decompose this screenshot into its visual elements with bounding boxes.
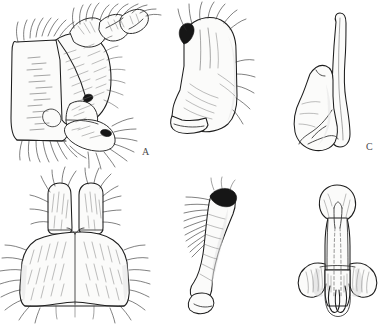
panel-a-appendage-terminal (120, 9, 149, 33)
panel-a: A (0, 0, 165, 170)
panel-f: F (290, 178, 382, 318)
panel-b: B (0, 178, 150, 318)
figure-plate: A (0, 0, 382, 324)
panel-e-basal-plate (294, 65, 337, 150)
panel-d-setae-apical (211, 177, 235, 190)
panel-a-label: A (142, 147, 150, 157)
panel-b-right-cercus (79, 183, 103, 234)
panel-f-drawing (290, 178, 382, 318)
panel-d-drawing (170, 178, 260, 318)
panel-d-basal-foot (188, 293, 214, 314)
panel-e: E (288, 0, 382, 170)
panel-a-drawing (0, 0, 165, 170)
panel-b-drawing (0, 178, 150, 318)
panel-f-shaft (325, 218, 350, 270)
panel-b-setae-cercus-sides (30, 195, 121, 225)
panel-e-drawing (288, 0, 382, 170)
panel-c: C (160, 0, 260, 160)
panel-b-left-cercus (48, 183, 72, 234)
panel-b-epandrium (20, 232, 130, 306)
panel-d: D (170, 178, 260, 318)
panel-c-drawing (160, 0, 260, 160)
